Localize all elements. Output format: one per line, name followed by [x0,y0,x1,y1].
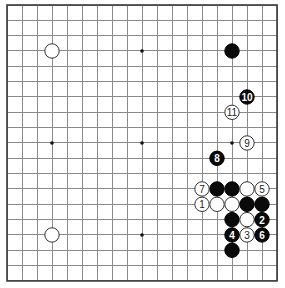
move-number-label: 4 [229,230,235,241]
white-stone-icon [225,197,239,211]
stone-black [255,197,269,211]
stone-black [210,182,224,196]
black-stone-icon [210,182,224,196]
star-point-icon [230,141,234,145]
numbered-stone-2: 2 [255,212,269,226]
stone-black [225,182,239,196]
numbered-stone-6: 6 [255,228,269,242]
stone-black [240,197,254,211]
white-stone-icon [210,197,224,211]
star-point-icon [140,233,144,237]
numbered-stone-5: 5 [255,182,269,196]
move-number-label: 6 [259,230,265,241]
numbered-stone-9: 9 [240,136,254,150]
stone-white [225,197,239,211]
stone-white [240,182,254,196]
numbered-stone-4: 4 [225,228,239,242]
star-point-icon [50,141,54,145]
numbered-stone-8: 8 [210,151,224,165]
move-number-label: 3 [244,230,250,241]
white-stone-icon [45,228,59,242]
black-stone-icon [225,182,239,196]
move-number-label: 10 [241,92,253,103]
move-number-label: 2 [259,215,265,226]
stone-black [225,243,239,257]
move-number-label: 11 [227,107,238,118]
black-stone-icon [240,197,254,211]
move-number-label: 8 [214,153,220,164]
stone-white [210,197,224,211]
stone-white [240,212,254,226]
black-stone-icon [225,44,239,58]
stone-black [225,44,239,58]
white-stone-icon [240,182,254,196]
black-stone-icon [225,243,239,257]
move-number-label: 7 [199,184,205,195]
go-board-diagram: 1234567891011 [0,0,285,288]
white-stone-icon [45,44,59,58]
move-number-label: 9 [244,138,250,149]
stone-white [45,44,59,58]
numbered-stone-3: 3 [240,228,254,242]
star-point-icon [140,141,144,145]
stone-black [225,212,239,226]
numbered-stone-1: 1 [195,197,209,211]
black-stone-icon [255,197,269,211]
move-number-label: 1 [199,199,205,210]
numbered-stone-11: 11 [225,105,239,119]
numbered-stone-10: 10 [240,90,254,104]
stone-white [45,228,59,242]
star-point-icon [140,49,144,53]
move-number-label: 5 [259,184,265,195]
white-stone-icon [240,212,254,226]
numbered-stone-7: 7 [195,182,209,196]
black-stone-icon [225,212,239,226]
